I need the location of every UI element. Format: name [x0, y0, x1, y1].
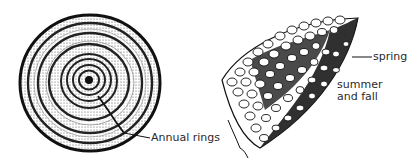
summer-and-fall-label: summer and fall — [337, 79, 382, 103]
annual-rings-label: Annual rings — [151, 132, 220, 144]
trunk-cross-section — [20, 15, 160, 151]
summer-label-line2: and fall — [337, 91, 382, 103]
spring-label: spring — [373, 51, 407, 63]
